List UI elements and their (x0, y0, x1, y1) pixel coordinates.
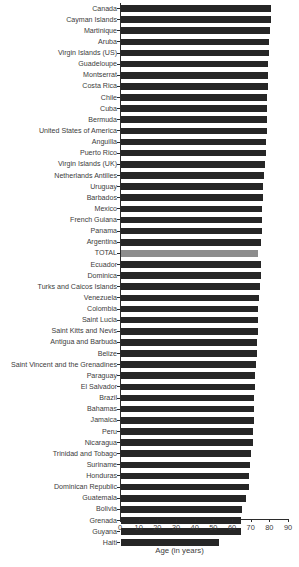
x-tick-mark (157, 519, 158, 522)
bar (121, 361, 256, 368)
bar-row: Saint Kitts and Nevis (0, 326, 299, 337)
y-axis-tick (117, 86, 120, 87)
bar-row: United States of America (0, 125, 299, 136)
x-axis-ticks: 0102030405060708090 (0, 519, 299, 539)
bar (121, 328, 258, 335)
x-tick-mark (139, 519, 140, 522)
bar-row: Martinique (0, 25, 299, 36)
x-tick-label: 60 (228, 523, 236, 532)
y-axis-tick (117, 153, 120, 154)
bar-rows-container: CanadaCayman IslandsMartiniqueArubaVirgi… (0, 0, 299, 567)
y-axis-tick (117, 97, 120, 98)
y-axis-tick (117, 498, 120, 499)
category-label: Virgin Islands (UK) (0, 159, 117, 170)
y-axis-tick (117, 453, 120, 454)
category-label: Ecuador (0, 259, 117, 270)
y-axis-tick (117, 464, 120, 465)
y-axis-tick (117, 75, 120, 76)
y-axis-tick (117, 342, 120, 343)
bar (121, 16, 271, 23)
bar (121, 439, 253, 446)
bar-row: Bahamas (0, 404, 299, 415)
bar-row: Antigua and Barbuda (0, 337, 299, 348)
y-axis-tick (117, 231, 120, 232)
bar-row: Bermuda (0, 114, 299, 125)
y-axis-tick (117, 398, 120, 399)
bar (121, 484, 249, 491)
category-label: Netherlands Antilles (0, 170, 117, 181)
y-axis-tick (117, 197, 120, 198)
bar-row: Cuba (0, 103, 299, 114)
bar (121, 462, 250, 469)
bar (121, 417, 254, 424)
category-label: Virgin Islands (US) (0, 48, 117, 59)
x-tick-label: 30 (172, 523, 180, 532)
bar-row: Panama (0, 226, 299, 237)
bar (121, 172, 264, 179)
y-axis-tick (117, 30, 120, 31)
bar-row: Dominican Republic (0, 482, 299, 493)
y-axis-tick (117, 431, 120, 432)
bar (121, 206, 262, 213)
category-label: Suriname (0, 459, 117, 470)
bar-row: Turks and Caicos Islands (0, 281, 299, 292)
y-axis-tick (117, 320, 120, 321)
bar-row: Guadeloupe (0, 59, 299, 70)
category-label: Saint Lucia (0, 315, 117, 326)
category-label: Mexico (0, 203, 117, 214)
y-axis-tick (117, 108, 120, 109)
bar (121, 372, 255, 379)
category-label: Cayman Islands (0, 14, 117, 25)
category-label: Saint Vincent and the Grenadines (0, 359, 117, 370)
y-axis-tick (117, 264, 120, 265)
x-tick-label: 80 (265, 523, 273, 532)
bar-row: Costa Rica (0, 81, 299, 92)
y-axis-tick (117, 487, 120, 488)
bar-row: Saint Vincent and the Grenadines (0, 359, 299, 370)
category-label: Paraguay (0, 370, 117, 381)
y-axis-tick (117, 309, 120, 310)
bar-row: El Salvador (0, 381, 299, 392)
bar-row: Ecuador (0, 259, 299, 270)
category-label: Canada (0, 3, 117, 14)
bar-row: Mexico (0, 203, 299, 214)
bar (121, 450, 251, 457)
x-axis-title: Age (in years) (0, 546, 299, 555)
y-axis-tick (117, 130, 120, 131)
x-axis-title-text: Age (in years) (155, 546, 204, 555)
y-axis-tick (117, 242, 120, 243)
bar (121, 183, 263, 190)
category-label: Brazil (0, 393, 117, 404)
y-axis-tick (117, 286, 120, 287)
category-label: Uruguay (0, 181, 117, 192)
x-tick-label: 50 (209, 523, 217, 532)
category-label: Honduras (0, 470, 117, 481)
bar (121, 495, 246, 502)
category-label: Belize (0, 348, 117, 359)
category-label: Anguilla (0, 137, 117, 148)
bar-row: Paraguay (0, 370, 299, 381)
bar (121, 406, 254, 413)
life-expectancy-bar-chart: CanadaCayman IslandsMartiniqueArubaVirgi… (0, 0, 299, 567)
bar (121, 306, 258, 313)
bar-row: Barbados (0, 192, 299, 203)
bar-row: Virgin Islands (US) (0, 48, 299, 59)
bar-row: Puerto Rico (0, 148, 299, 159)
bar (121, 283, 260, 290)
category-label: Venezuela (0, 292, 117, 303)
bar-row: Aruba (0, 36, 299, 47)
category-label: Bahamas (0, 404, 117, 415)
bar (121, 105, 267, 112)
y-axis-tick (117, 53, 120, 54)
y-axis-tick (117, 409, 120, 410)
bar-row: Suriname (0, 459, 299, 470)
y-axis-tick (117, 420, 120, 421)
y-axis-tick (117, 442, 120, 443)
category-label: Martinique (0, 25, 117, 36)
y-axis-tick (117, 219, 120, 220)
x-tick-label: 40 (191, 523, 199, 532)
bar-row: TOTAL (0, 248, 299, 259)
category-label: El Salvador (0, 381, 117, 392)
bar (121, 150, 266, 157)
category-label: French Guiana (0, 214, 117, 225)
